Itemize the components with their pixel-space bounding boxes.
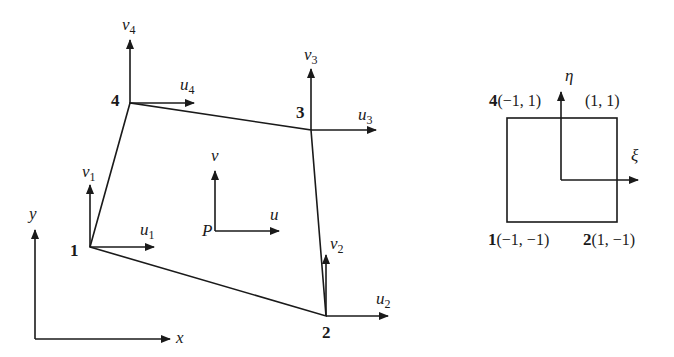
x-axis-label: x <box>175 328 184 347</box>
node-1: 1 v1 u1 <box>70 162 155 260</box>
physical-element <box>90 103 326 316</box>
corner-2-label: 2(1, −1) <box>583 230 635 249</box>
node-3: 3 v3 u3 <box>296 45 376 130</box>
node-4-label: 4 <box>111 91 120 110</box>
v-label: v <box>211 146 219 165</box>
u3-label: u3 <box>358 105 373 127</box>
y-axis-label: y <box>27 204 37 223</box>
xi-axis-label: ξ <box>631 146 639 165</box>
v4-label: v4 <box>122 15 136 37</box>
v1-label: v1 <box>82 162 96 184</box>
u1-label: u1 <box>140 220 155 242</box>
quadrilateral-outline <box>90 103 326 316</box>
u4-label: u4 <box>180 75 195 97</box>
node-1-label: 1 <box>70 241 79 260</box>
interior-point-p: P v u <box>201 146 279 240</box>
corner-1-label: 1(−1, −1) <box>488 230 549 249</box>
node-3-label: 3 <box>296 103 305 122</box>
node-2-label: 2 <box>322 323 331 342</box>
corner-3-label: (1, 1) <box>585 92 620 110</box>
u2-label: u2 <box>376 289 391 311</box>
corner-4-label: 4(−1, 1) <box>489 91 541 110</box>
node-4: 4 v4 u4 <box>111 15 195 110</box>
natural-square-outline <box>507 118 617 222</box>
point-p-label: P <box>201 221 212 240</box>
eta-axis-label: η <box>565 66 573 85</box>
u-label: u <box>270 205 279 224</box>
v2-label: v2 <box>330 234 344 256</box>
natural-element: η ξ 1(−1, −1) 2(1, −1) (1, 1) 4(−1, 1) <box>488 66 639 249</box>
v3-label: v3 <box>304 45 318 67</box>
global-axes: y x <box>27 204 184 347</box>
isoparametric-element-diagram: 1 v1 u1 2 v2 u2 3 v3 u3 4 v4 u4 P v u <box>0 0 674 357</box>
node-2: 2 v2 u2 <box>322 234 391 342</box>
